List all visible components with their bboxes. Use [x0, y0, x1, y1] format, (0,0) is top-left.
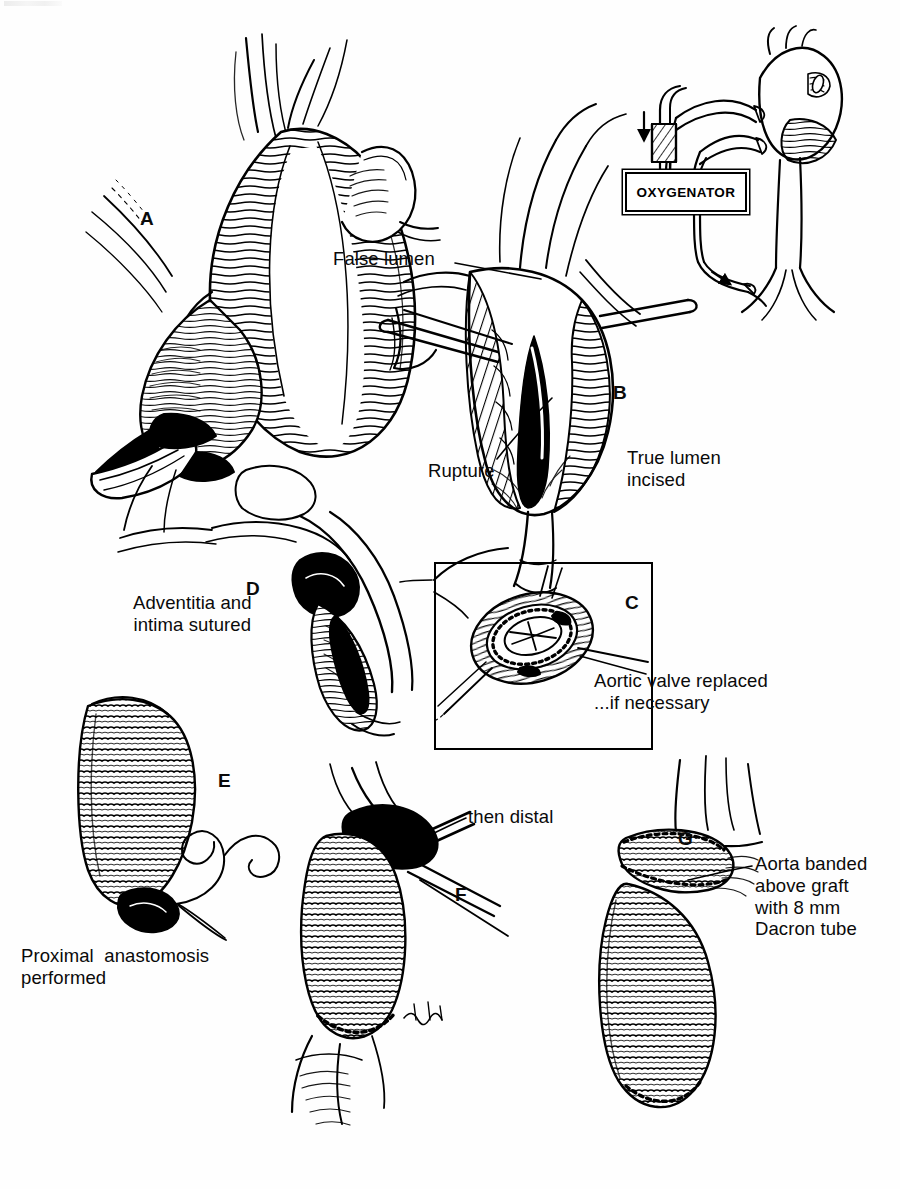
panel-letter-c: C [625, 592, 639, 614]
adventitia-intima-sutured-label: Adventitia and intima sutured [133, 592, 252, 636]
panel-letter-f: F [455, 884, 467, 906]
panel-g-drawing [599, 756, 762, 1107]
leader-proximal-anastomosis [178, 904, 225, 938]
oxygenator-box: OXYGENATOR [625, 172, 747, 212]
aortic-valve-replaced-label: Aortic valve replaced ...if necessary [594, 670, 768, 714]
false-lumen-label: False lumen [333, 248, 435, 270]
leader-inset-c [400, 580, 432, 582]
figure-page: OXYGENATOR A B C D E F G False lumen Rup… [0, 0, 900, 1189]
panel-c-inset-frame [434, 562, 653, 750]
panel-letter-a: A [140, 208, 154, 230]
aorta-banded-label: Aorta banded above graft with 8 mm Dacro… [755, 853, 867, 940]
rupture-label: Rupture [428, 460, 495, 482]
true-lumen-incised-label: True lumen incised [627, 447, 721, 491]
then-distal-label: then distal [468, 806, 553, 828]
panel-a-drawing [86, 34, 440, 532]
panel-letter-b: B [613, 382, 627, 404]
panel-letter-e: E [218, 770, 231, 792]
panel-d-drawing [293, 512, 413, 736]
panel-letter-g: G [678, 828, 693, 850]
proximal-anastomosis-label: Proximal anastomosis performed [21, 945, 209, 989]
oxygenator-label: OXYGENATOR [637, 185, 736, 200]
